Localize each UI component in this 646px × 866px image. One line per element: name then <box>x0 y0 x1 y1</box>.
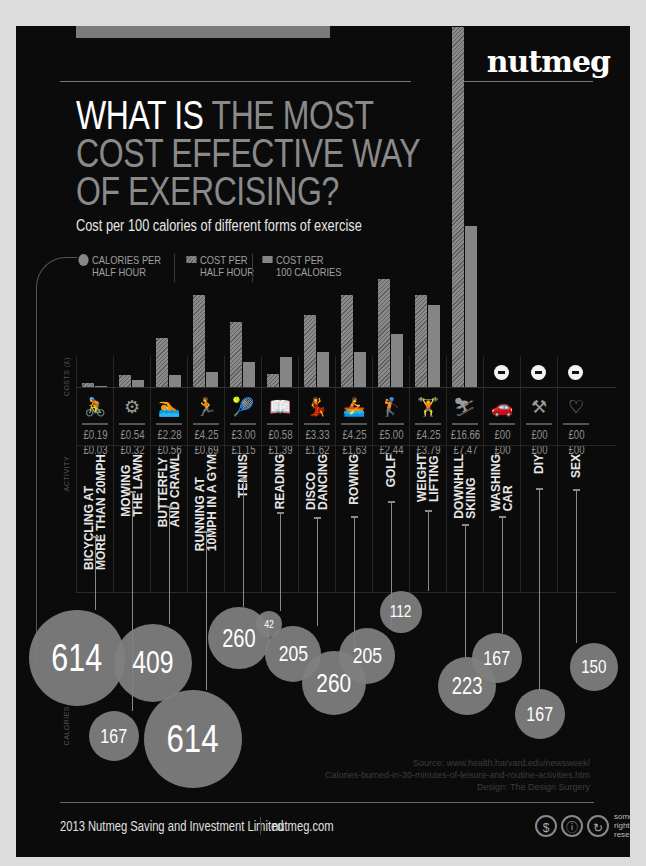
axis-label-calories: CALORIES <box>63 706 70 745</box>
bubble-stem <box>502 516 503 633</box>
icon-underline <box>489 423 515 425</box>
calorie-bubble: 150 <box>570 643 618 691</box>
legend-divider <box>174 254 175 282</box>
column-divider <box>446 356 447 592</box>
header-rule-right <box>455 81 593 82</box>
bar-baseline <box>76 387 616 388</box>
column-divider <box>409 356 410 592</box>
calorie-bubble: 614 <box>144 690 242 788</box>
activity-label: DIY <box>533 454 545 474</box>
cost-half-hour: £0.19 <box>80 428 110 443</box>
icon-underline <box>82 423 108 425</box>
bar-cost-100-calories <box>391 334 403 387</box>
column-divider <box>335 356 336 592</box>
nutmeg-logo[interactable]: nutmeg <box>487 44 610 79</box>
bar-cost-100-calories <box>243 362 255 387</box>
activity-row-rule <box>76 592 616 593</box>
activity-label: GOLF <box>385 454 397 487</box>
stem-cap <box>203 531 210 533</box>
tools-icon: ⚒ <box>524 395 554 419</box>
activity-label: WASHINGCAR <box>490 454 514 511</box>
cost-half-hour: £4.25 <box>191 428 221 443</box>
cost-row-rule <box>76 445 616 446</box>
activity-name-line-1: ROWING <box>347 454 361 505</box>
bar-cost-100-calories <box>169 375 181 387</box>
website-link[interactable]: nutmeg.com <box>272 818 334 834</box>
bar-cost-half-hour <box>230 322 242 387</box>
bar-cost-half-hour <box>156 338 168 387</box>
calorie-value: 409 <box>132 645 173 681</box>
icon-underline <box>156 423 182 425</box>
stem-cap <box>92 536 99 538</box>
dancing-icon: 💃 <box>302 395 332 419</box>
stem-cap <box>351 516 358 518</box>
lawnmower-icon: ⚙ <box>117 395 147 419</box>
bar-cost-100-calories <box>465 226 477 387</box>
cycling-icon: 🚴 <box>80 395 110 419</box>
activity-name-line-2: SKIING <box>464 477 478 518</box>
legend-label: COST PER <box>200 254 254 266</box>
activity-label: SEX <box>570 454 582 478</box>
stem-cap <box>388 501 395 503</box>
tennis-icon: 🎾 <box>228 395 258 419</box>
title-grey-3: OF EXERCISING? <box>76 168 339 214</box>
calorie-bubble: 112 <box>380 591 422 633</box>
calorie-bubble: 409 <box>114 624 192 702</box>
activity-name-line-1: GOLF <box>384 454 398 487</box>
design-credit: Design: The Design Surgery <box>325 781 590 793</box>
infographic-panel: nutmeg WHAT IS THE MOST COST EFFECTIVE W… <box>16 26 630 857</box>
footer-rule <box>60 802 594 803</box>
legend-label: COST PER <box>276 254 341 266</box>
activity-name-line-2: THE LAWN <box>131 454 145 517</box>
column-divider <box>150 356 151 592</box>
column-divider <box>298 356 299 592</box>
source-credit: Source: www.health.harvard.edu/newsweek/… <box>325 757 590 793</box>
sharealike-icon: ↻ <box>587 815 609 837</box>
page-title: WHAT IS THE MOST COST EFFECTIVE WAY OF E… <box>76 96 482 210</box>
bubble-stem <box>95 536 96 610</box>
activity-name-line-2: CAR <box>501 485 515 511</box>
stem-cap <box>462 524 469 526</box>
bubble-stem <box>317 517 318 626</box>
calorie-value: 167 <box>101 725 128 748</box>
weightlifting-icon: 🏋 <box>413 395 443 419</box>
calorie-bubble: 614 <box>29 610 125 706</box>
connector-curve <box>36 257 77 668</box>
bubble-stem <box>169 506 170 624</box>
source-line[interactable]: Source: www.health.harvard.edu/newsweek/ <box>325 757 590 769</box>
column-divider <box>224 356 225 592</box>
calorie-value: 167 <box>484 647 511 670</box>
stem-cap <box>277 512 284 514</box>
legend-label: CALORIES PER <box>92 254 161 266</box>
legend-calories: CALORIES PER HALF HOUR <box>92 254 161 278</box>
calorie-bubble: 167 <box>472 633 522 683</box>
bar-cost-half-hour <box>452 27 464 387</box>
column-divider <box>520 356 521 592</box>
activity-name-line-1: READING <box>273 454 287 509</box>
calorie-value: 260 <box>222 624 255 653</box>
rights-text: some rights reserved <box>614 812 630 839</box>
running-icon: 🏃 <box>191 395 221 419</box>
activity-name-line-2: 10MPH IN A GYM <box>205 454 219 551</box>
zero-cost-icon <box>531 365 546 380</box>
bubble-stem <box>243 478 244 607</box>
header-rule-left <box>60 81 411 82</box>
bar-cost-100-calories <box>428 305 440 387</box>
legend-divider <box>252 254 253 282</box>
calorie-value: 205 <box>352 643 381 669</box>
cost-half-hour: £0.58 <box>265 428 295 443</box>
activity-label: WEIGHTLIFTING <box>416 454 440 502</box>
stem-cap <box>499 516 506 518</box>
calorie-value: 150 <box>581 656 606 678</box>
cost-half-hour: £4.25 <box>339 428 369 443</box>
activity-name-line-1: SEX <box>569 454 583 478</box>
bar-cost-100-calories <box>317 352 329 387</box>
bar-cost-half-hour <box>267 374 279 387</box>
legend-label: HALF HOUR <box>92 266 161 278</box>
icon-underline <box>267 423 293 425</box>
stem-cap <box>425 510 432 512</box>
legend-label: 100 CALORIES <box>276 266 341 278</box>
activity-label: ROWING <box>348 454 360 505</box>
column-divider <box>76 356 77 592</box>
source-line: Calories-burned-in-30-minutes-of-leisure… <box>325 769 590 781</box>
